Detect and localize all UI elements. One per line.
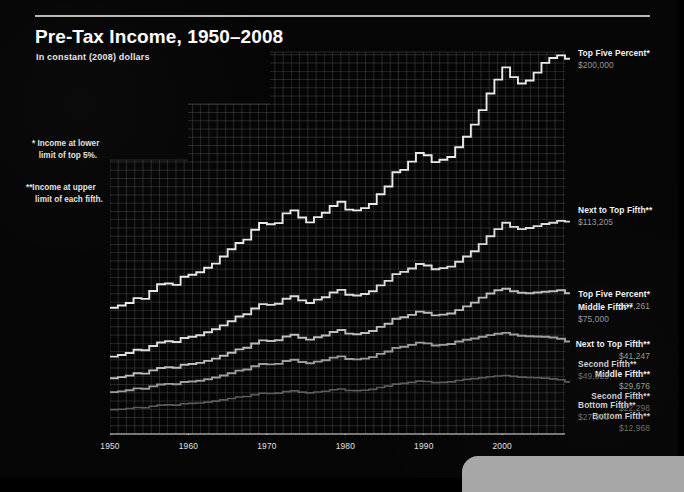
- series-label-name: Bottom Fifth**: [578, 400, 636, 410]
- x-tick-label: 2000: [493, 441, 512, 451]
- chart-svg: [110, 38, 570, 435]
- series-label-value: $29,676: [595, 381, 650, 391]
- series-label: Second Fifth**$49,325: [578, 359, 637, 381]
- series-label-name: Next to Top Fifth**: [578, 205, 652, 215]
- series-label-value: $12,968: [592, 423, 650, 433]
- series-label-name: Next to Top Fifth**: [576, 339, 650, 349]
- footnote-fifths: **Income at upper limit of each fifth.: [26, 182, 103, 206]
- series-line: [110, 221, 570, 357]
- series-label-value: $27,800: [578, 412, 636, 422]
- header-rule: [35, 15, 650, 17]
- series-label-name: Top Five Percent*: [578, 289, 650, 299]
- series-label: Next to Top Fifth**$113,205: [578, 205, 652, 227]
- series-label-name: Second Fifth**: [578, 359, 637, 369]
- series-line: [110, 55, 570, 307]
- series-label-value: $49,325: [578, 371, 637, 381]
- x-axis-tick-labels: 195019601970198019902000: [0, 441, 678, 455]
- series-label-value: $113,205: [578, 217, 652, 227]
- series-label-name: Middle Fifth**: [578, 302, 633, 312]
- page-corner-artifact: [462, 456, 684, 492]
- series-label-value: $75,000: [578, 314, 633, 324]
- series-label-name: Top Five Percent*: [578, 48, 650, 58]
- footnote-top-five-percent: * Income at lower limit of top 5%.: [32, 138, 99, 162]
- x-tick-label: 1950: [100, 441, 119, 451]
- series-label: Bottom Fifth**$27,800: [578, 400, 636, 422]
- series-label: Middle Fifth**$75,000: [578, 302, 633, 324]
- x-tick-label: 1970: [257, 441, 276, 451]
- x-tick-label: 1980: [336, 441, 355, 451]
- series-label: Top Five Percent*$200,000: [578, 48, 650, 70]
- series-label-value: $200,000: [578, 60, 650, 70]
- x-tick-label: 1960: [179, 441, 198, 451]
- chart-plot-area: [110, 38, 570, 435]
- x-tick-label: 1990: [414, 441, 433, 451]
- series-label: Next to Top Fifth**$41,247: [576, 339, 650, 361]
